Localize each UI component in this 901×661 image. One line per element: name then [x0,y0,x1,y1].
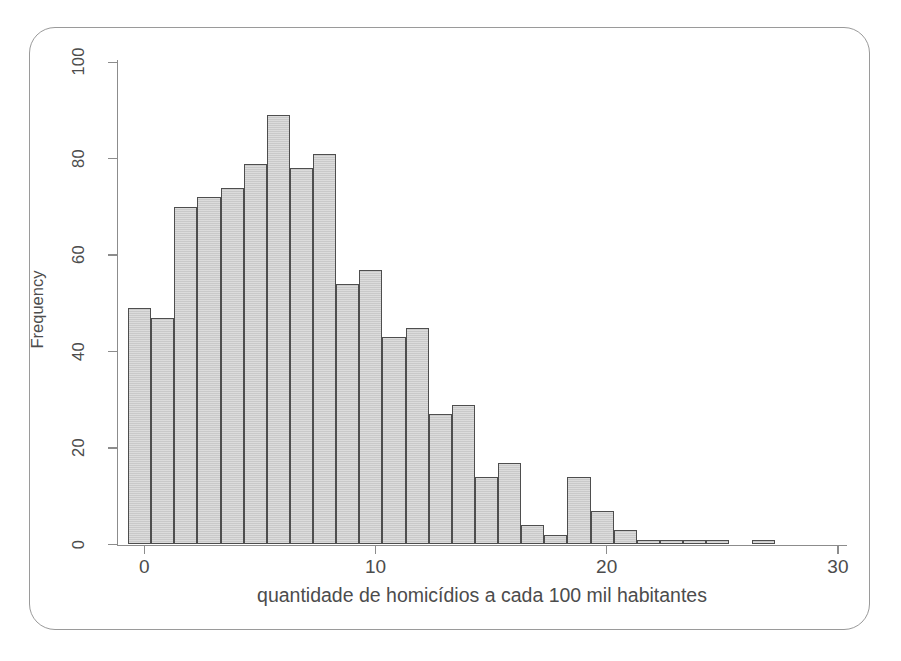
y-tick-mark [108,544,117,545]
histogram-bar [267,115,290,544]
y-tick-label: 60 [69,235,88,275]
histogram-bar [221,188,244,545]
y-axis-title: Frequency [28,230,47,390]
histogram-bar [359,270,382,545]
histogram-bar [429,414,452,544]
histogram-bar [244,164,267,545]
x-axis-line [117,545,847,546]
x-tick-mark [606,545,607,554]
y-tick-label: 80 [69,138,88,178]
y-tick-mark [108,254,117,255]
x-tick-label: 20 [577,556,637,578]
histogram-bar [128,308,151,544]
histogram-bar [174,207,197,545]
histogram-bar [567,477,590,545]
histogram-bar [382,337,405,544]
x-tick-label: 10 [346,556,406,578]
histogram-bar [591,511,614,545]
y-tick-mark [108,351,117,352]
histogram-bar [406,328,429,545]
x-tick-mark [837,545,838,554]
histogram-bar [637,540,660,545]
y-axis-line [117,60,118,546]
y-tick-label: 100 [69,42,88,82]
histogram-bar [313,154,336,545]
x-tick-label: 30 [808,556,868,578]
histogram-bar [544,535,567,545]
y-tick-label: 20 [69,428,88,468]
histogram-bar [197,197,220,544]
y-tick-mark [108,62,117,63]
y-tick-label: 0 [69,524,88,564]
histogram-bar [683,540,706,545]
x-tick-mark [144,545,145,554]
histogram-bar [660,540,683,545]
y-tick-mark [108,447,117,448]
histogram-bar [151,318,174,545]
histogram-bar [614,530,637,544]
x-axis-title: quantidade de homicídios a cada 100 mil … [117,584,847,607]
histogram-bar [521,525,544,544]
y-tick-mark [108,158,117,159]
histogram-bar [290,168,313,544]
y-tick-label: 40 [69,331,88,371]
histogram-plot: 020406080100 0102030 Frequency quantidad… [0,0,901,661]
histogram-bar [452,405,475,545]
x-tick-label: 0 [114,556,174,578]
x-tick-mark [375,545,376,554]
histogram-bar [336,284,359,544]
histogram-bar [752,540,775,545]
histogram-bar [475,477,498,545]
histogram-bar [498,463,521,545]
histogram-bar [706,540,729,545]
